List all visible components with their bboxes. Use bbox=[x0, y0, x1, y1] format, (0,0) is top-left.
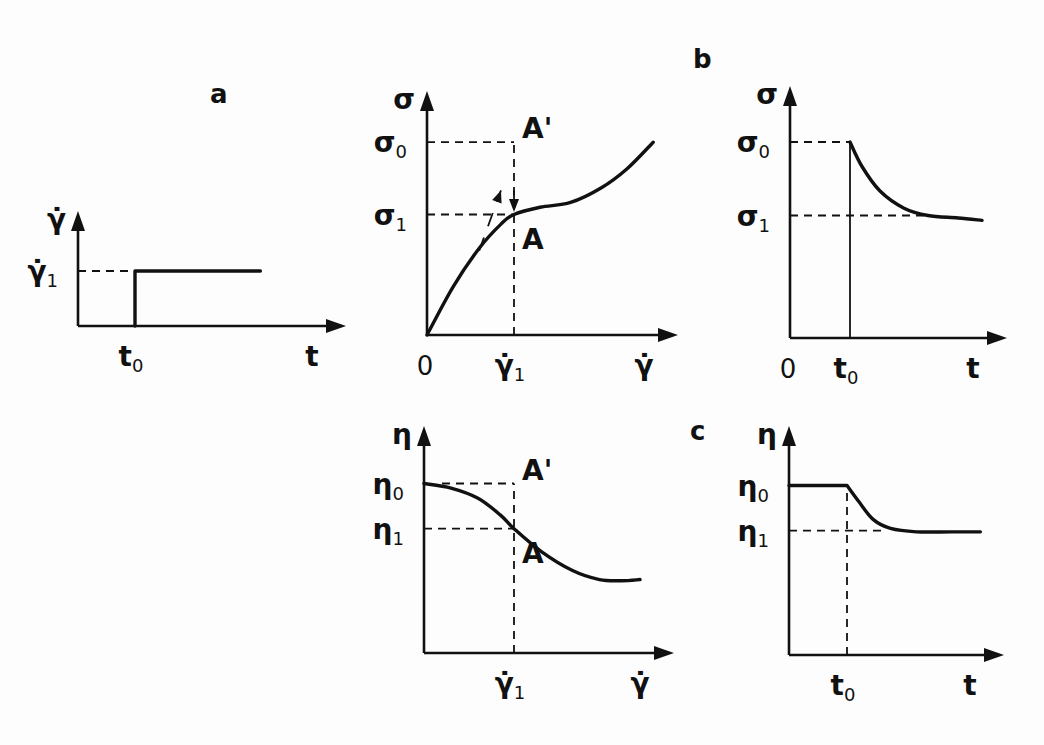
y-axis-arrow-icon bbox=[783, 86, 797, 106]
plot-b-right: σt0t0σ0σ1 bbox=[737, 78, 1007, 388]
panel-label-a: a bbox=[210, 79, 228, 109]
origin-label: 0 bbox=[780, 354, 797, 384]
y-tick-label-0: σ0 bbox=[737, 126, 770, 162]
x-axis-label: γ̇ bbox=[634, 349, 653, 382]
y-axis-arrow-icon bbox=[782, 426, 796, 446]
annotation-a-prime: A' bbox=[522, 454, 552, 487]
x-axis-arrow-icon bbox=[987, 331, 1007, 345]
x-axis-label: t bbox=[963, 669, 976, 702]
x-axis-arrow-icon bbox=[658, 328, 678, 342]
y-tick-label-1: σ1 bbox=[737, 200, 770, 236]
x-tick-label-0: t0 bbox=[119, 340, 144, 376]
y-tick-label-1: η1 bbox=[738, 515, 769, 551]
y-tick-label-0: σ0 bbox=[374, 126, 407, 162]
x-axis-label: t bbox=[305, 340, 318, 373]
plot-a: aγ̇tt0γ̇1 bbox=[27, 79, 346, 376]
y-axis-arrow-icon bbox=[71, 211, 85, 231]
y-tick-label-1: σ1 bbox=[374, 199, 407, 235]
y-axis-arrow-icon bbox=[417, 426, 431, 446]
y-axis-label: η bbox=[392, 418, 412, 451]
y-axis-label: σ bbox=[393, 83, 415, 116]
x-axis-arrow-icon bbox=[326, 319, 346, 333]
annotation-a: A bbox=[522, 223, 544, 256]
series-line-a-0 bbox=[135, 271, 260, 326]
panel-label-c: c bbox=[690, 416, 705, 446]
annotation-a: A bbox=[522, 537, 544, 570]
y-axis-label: η bbox=[757, 418, 777, 451]
y-tick-label-0: η0 bbox=[738, 470, 769, 506]
series-line-b-right-0 bbox=[850, 142, 982, 220]
y-tick-label-0: η0 bbox=[373, 468, 404, 504]
x-axis-arrow-icon bbox=[654, 646, 674, 660]
rheology-figure: aγ̇tt0γ̇1bσγ̇0γ̇1σ0σ1A'Aσt0t0σ0σ1cηγ̇γ̇1… bbox=[0, 0, 1044, 745]
y-axis-arrow-icon bbox=[420, 91, 434, 111]
x-tick-label-0: γ̇1 bbox=[495, 349, 526, 385]
x-axis-label: γ̇ bbox=[630, 667, 649, 700]
y-axis-label: σ bbox=[756, 78, 778, 111]
plot-c-right: ηtt0η0η1 bbox=[738, 418, 1004, 705]
annotation-a-prime: A' bbox=[522, 112, 552, 145]
y-axis-label: γ̇ bbox=[47, 203, 66, 236]
series-line-c-right-0 bbox=[789, 486, 980, 533]
plot-b-left: bσγ̇0γ̇1σ0σ1A'A bbox=[374, 44, 712, 385]
origin-label: 0 bbox=[417, 351, 434, 381]
tangent-arrow-icon bbox=[492, 190, 501, 203]
panel-label-b: b bbox=[693, 44, 712, 74]
x-tick-label-0: t0 bbox=[831, 669, 856, 705]
x-tick-label-0: t0 bbox=[834, 352, 859, 388]
figure-stage: aγ̇tt0γ̇1bσγ̇0γ̇1σ0σ1A'Aσt0t0σ0σ1cηγ̇γ̇1… bbox=[0, 0, 1044, 745]
plot-c-left: cηγ̇γ̇1η0η1A'A bbox=[373, 416, 706, 703]
y-tick-label-0: γ̇1 bbox=[27, 255, 58, 291]
x-axis-label: t bbox=[966, 352, 979, 385]
down-arrow-icon bbox=[509, 199, 519, 212]
y-tick-label-1: η1 bbox=[373, 513, 404, 549]
x-axis-arrow-icon bbox=[984, 648, 1004, 662]
x-tick-label-0: γ̇1 bbox=[495, 667, 526, 703]
